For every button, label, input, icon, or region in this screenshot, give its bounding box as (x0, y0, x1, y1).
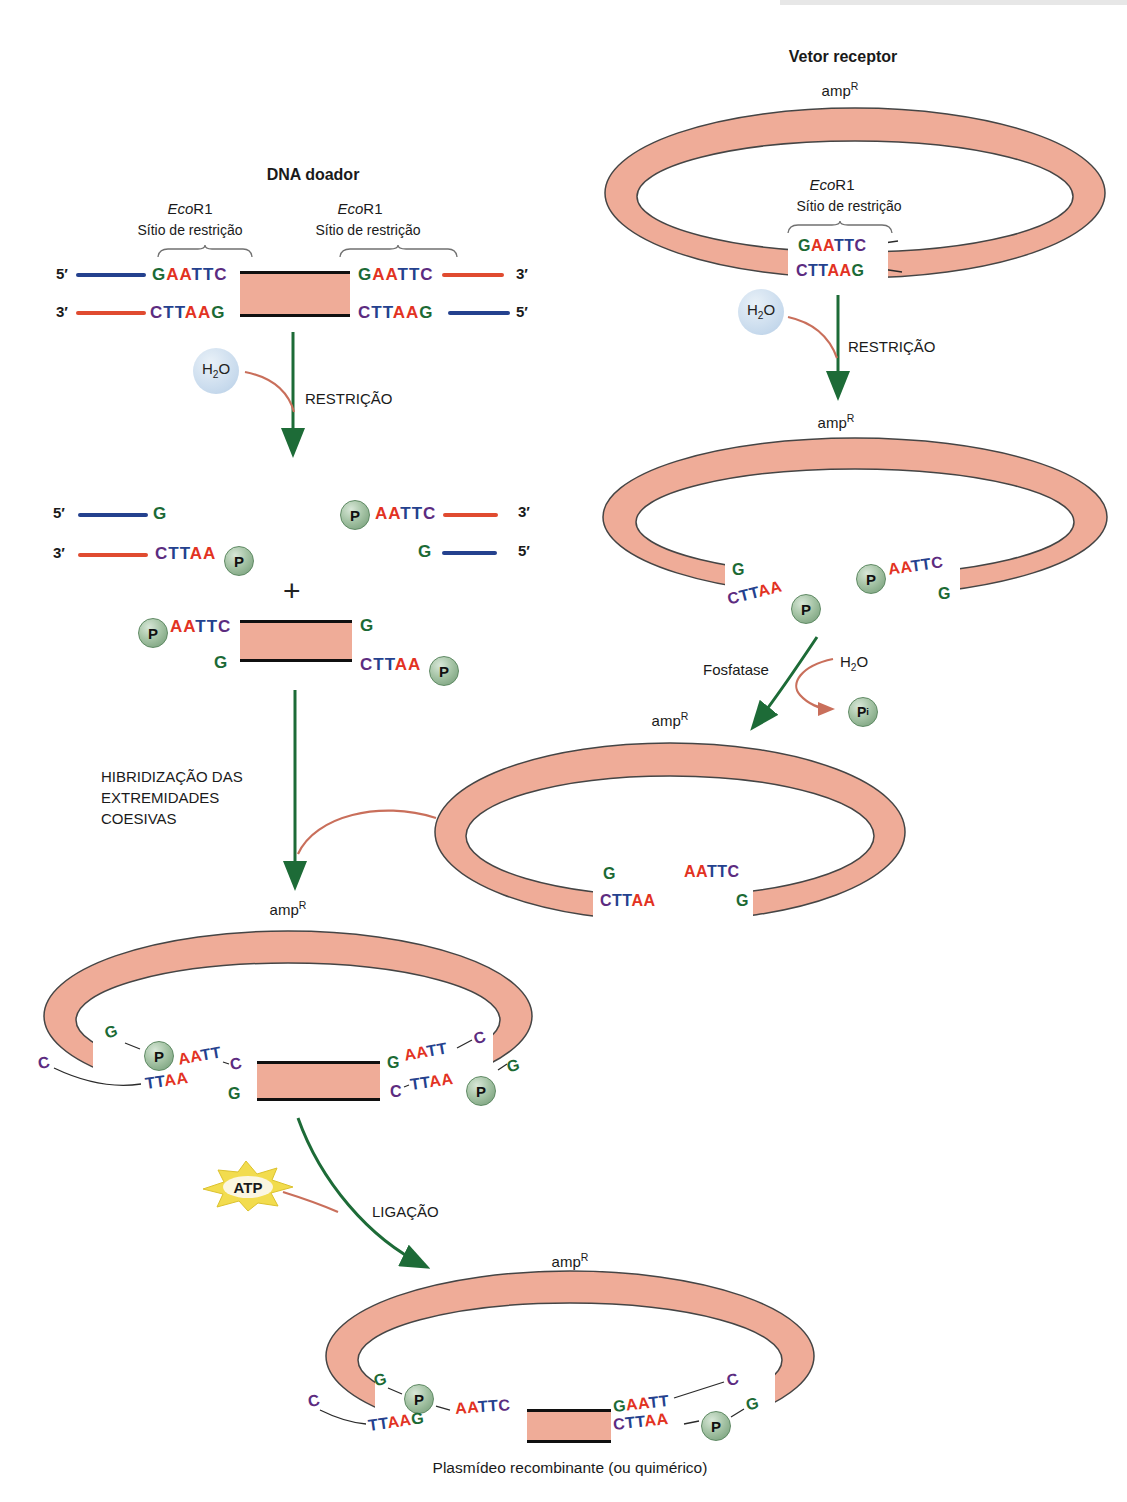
h2o-molecule: H2O (193, 348, 239, 394)
amp-resistance-label: ampR (640, 710, 700, 730)
sequence-connector (320, 1410, 366, 1424)
seq-c: C (390, 1084, 402, 1100)
seq-g: G (418, 543, 432, 560)
seq-g: G (387, 1055, 400, 1071)
seq-g: G (603, 866, 616, 882)
enzyme-name-rest: R1 (363, 200, 382, 217)
plus-sign: + (283, 576, 301, 606)
restriction-site-brace-left (158, 245, 252, 257)
seq-cttaa: CTTAA (600, 893, 656, 909)
phosphate-circle: P (701, 1411, 731, 1441)
seq-cttaa: CTTAA (155, 545, 216, 562)
enzyme-name-italic: Eco (809, 176, 835, 193)
recombinant-insert-box (527, 1409, 611, 1443)
amp-resistance-label: ampR (806, 412, 866, 432)
restriction-step-label: RESTRIÇÃO (305, 390, 393, 408)
seq-g: G (736, 893, 749, 909)
fragment-insert-box (240, 620, 352, 662)
amp-resistance-label: ampR (540, 1251, 600, 1271)
restriction-step-label: RESTRIÇÃO (848, 338, 936, 356)
enzyme-name-italic: Eco (337, 200, 363, 217)
h2o-curve-right (788, 317, 837, 358)
strand-line-blue (448, 311, 510, 315)
sequence-connector (54, 1068, 141, 1085)
phosphate-circle: P (856, 564, 886, 594)
phosphate-circle: P (224, 546, 254, 576)
atp-label: ATP (224, 1179, 272, 1197)
donor-insert-box (240, 271, 350, 317)
h2o-formula: H2O (202, 361, 230, 380)
three-prime-label: 3′ (518, 504, 530, 519)
strand-line-red (442, 273, 504, 277)
seq-aattc: AATTC (684, 864, 740, 880)
restriction-site-label-left: Sítio de restrição (105, 222, 275, 239)
enzyme-name-rest: R1 (835, 176, 854, 193)
h2o-molecule: H2O (738, 289, 784, 335)
h2o-formula: H2O (747, 302, 775, 321)
amp-resistance-label: ampR (810, 80, 870, 100)
phosphatase-arrow (754, 637, 817, 726)
seq-gaattc: GAATTC (358, 266, 434, 283)
seq-g: G (938, 586, 951, 602)
enzyme-name-italic: Eco (167, 200, 193, 217)
phosphate-circle: P (340, 500, 370, 530)
enzyme-name-rest: R1 (193, 200, 212, 217)
strand-line-red (76, 311, 146, 315)
seq-g: G (214, 654, 228, 671)
phosphate-circle: P (144, 1041, 174, 1071)
strand-line-blue (442, 551, 497, 555)
seq-cttaag: CTTAAG (796, 263, 865, 279)
three-prime-label: 3′ (516, 266, 528, 281)
three-prime-label: 3′ (56, 304, 68, 319)
phosphate-circle: P (466, 1076, 496, 1106)
enzyme-label-vector: EcoR1 (772, 176, 892, 194)
inorganic-phosphate-circle: Pi (848, 697, 878, 727)
seq-cttaag: CTTAAG (150, 304, 226, 321)
seq-gaattc: GAATTC (152, 266, 228, 283)
vector-feed-curve (298, 811, 436, 854)
phosphatase-label: Fosfatase (703, 661, 769, 679)
strand-line-red (443, 513, 498, 517)
three-prime-label: 3′ (53, 545, 65, 560)
seq-aattc: AATTC (375, 505, 436, 522)
recombinant-caption: Plasmídeo recombinante (ou quimérico) (330, 1459, 810, 1478)
donor-title: DNA doador (233, 166, 393, 184)
five-prime-label: 5′ (518, 543, 530, 558)
phosphate-circle: P (429, 656, 459, 686)
seq-g: G (360, 617, 374, 634)
seq-cttaag: CTTAAG (358, 304, 434, 321)
seq-g: G (732, 562, 745, 578)
five-prime-label: 5′ (53, 505, 65, 520)
h2o-curve-left (245, 372, 294, 412)
hybridized-insert-box (257, 1061, 380, 1101)
seq-gaattc: GAATTC (798, 238, 867, 254)
restriction-site-label-right: Sítio de restrição (283, 222, 453, 239)
enzyme-label-left: EcoR1 (130, 200, 250, 218)
ligation-step-label: LIGAÇÃO (372, 1203, 439, 1221)
seq-aattc: AATTC (170, 618, 231, 635)
seq-g: G (228, 1086, 241, 1102)
diagram-canvas: DNA doador EcoR1 Sítio de restrição EcoR… (0, 0, 1127, 1502)
seq-cttaa: CTTAA (360, 656, 421, 673)
hybridization-label-line3: COESIVAS (101, 810, 177, 828)
restriction-site-brace-right (340, 245, 457, 257)
hybridization-label-line1: HIBRIDIZAÇÃO DAS (101, 768, 243, 786)
enzyme-label-right: EcoR1 (300, 200, 420, 218)
strand-line-blue (78, 513, 148, 517)
phosphate-circle: P (138, 618, 168, 648)
seq-g: G (153, 505, 167, 522)
atp-curve (283, 1192, 338, 1212)
restriction-site-label-vector: Sítio de restrição (764, 198, 934, 215)
five-prime-label: 5′ (56, 266, 68, 281)
five-prime-label: 5′ (516, 304, 528, 319)
restriction-site-brace-vector (788, 221, 892, 233)
ligation-arrow (298, 1118, 425, 1266)
vector-title: Vetor receptor (763, 48, 923, 66)
strand-line-blue (76, 273, 146, 277)
amp-resistance-label: ampR (258, 899, 318, 919)
h2o-to-pi-curve (796, 659, 833, 709)
h2o-text: H2O (840, 653, 868, 674)
hybridization-label-line2: EXTREMIDADES (101, 789, 219, 807)
strand-line-red (78, 553, 148, 557)
phosphate-circle: P (791, 594, 821, 624)
